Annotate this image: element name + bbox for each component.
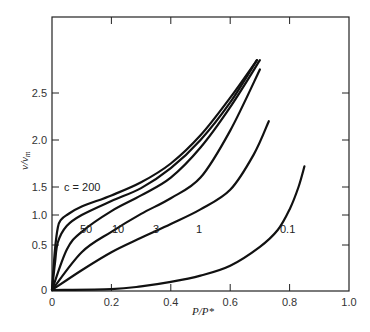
x-tick-label: 0.2 [104,296,119,308]
curve-label-1: 1 [196,223,202,235]
curve-label-3: 3 [153,223,159,235]
x-tick-label: 0 [49,296,55,308]
curve-label-c200: c = 200 [64,181,100,193]
chart: 00.20.40.60.81.0 00.51.01.52.02.5 c = 20… [0,0,370,332]
y-tick-label: 0.5 [32,239,47,251]
y-tick-label: 1.0 [32,209,47,221]
x-tick-label: 1.0 [341,296,356,308]
x-tick-label: 0.4 [163,296,178,308]
y-tick-label: 2.0 [32,134,47,146]
curve-label-50: 50 [80,223,92,235]
x-axis-ticks: 00.20.40.60.81.0 [49,17,357,308]
x-axis-title: P/P* [191,305,214,317]
curve-200 [52,60,257,290]
x-tick-label: 0.6 [223,296,238,308]
curves [52,60,304,290]
plot-frame [52,17,349,291]
y-axis-title: v/vm [18,151,32,170]
y-tick-label: 1.5 [32,181,47,193]
y-tick-label: 0 [41,284,47,296]
y-tick-label: 2.5 [32,87,47,99]
svg-text:v/vm: v/vm [18,151,32,170]
x-tick-label: 0.8 [282,296,297,308]
curve-label-0.1: 0.1 [280,223,295,235]
curve-label-10: 10 [112,223,124,235]
